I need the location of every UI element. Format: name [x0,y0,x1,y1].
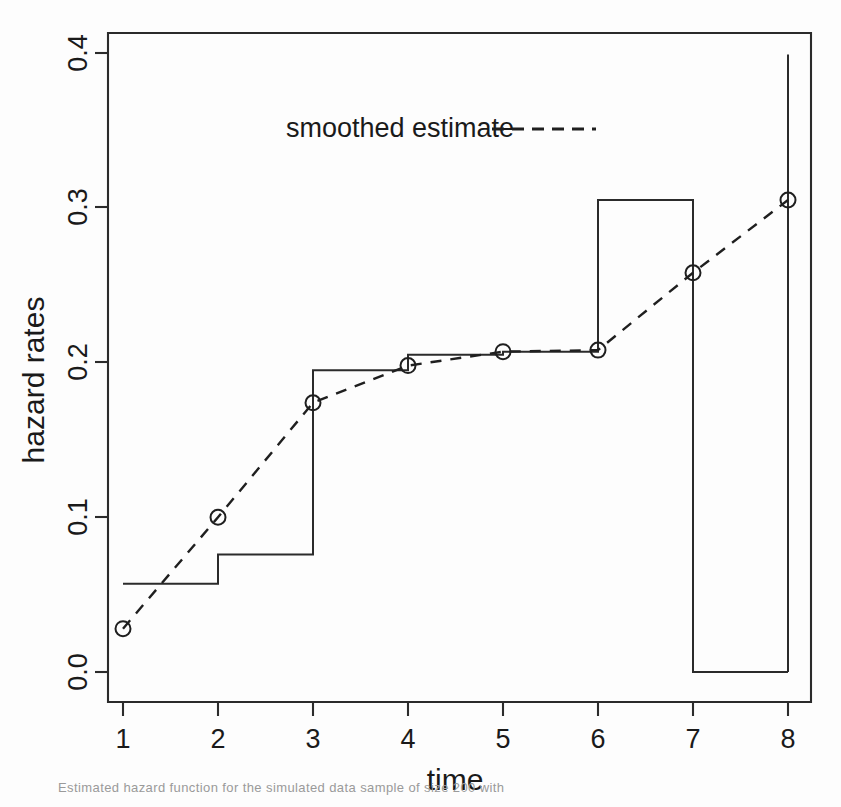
y-axis-tick-labels: 0.0 0.1 0.2 0.3 0.4 [63,34,93,691]
hazard-rate-figure: 0.0 0.1 0.2 0.3 0.4 hazard rates 1 2 3 4… [0,0,841,807]
x-tick-label-5: 5 [495,724,510,754]
hazard-rate-plot: 0.0 0.1 0.2 0.3 0.4 hazard rates 1 2 3 4… [0,0,841,807]
y-tick-label-3: 0.3 [63,188,93,226]
x-tick-label-2: 2 [210,724,225,754]
smoothed-estimate-path [123,200,788,629]
y-tick-label-1: 0.1 [63,498,93,536]
y-axis-title: hazard rates [17,297,50,464]
x-axis-ticks [123,702,788,716]
legend: smoothed estimate [286,113,596,143]
y-axis-ticks [95,53,108,672]
x-tick-label-8: 8 [780,724,795,754]
step-estimate-series [123,55,788,672]
x-tick-label-7: 7 [685,724,700,754]
smoothed-estimate-series [123,200,788,629]
x-tick-label-4: 4 [400,724,415,754]
y-tick-label-0: 0.0 [63,653,93,691]
x-axis-tick-labels: 1 2 3 4 5 6 7 8 [115,724,795,754]
x-tick-label-1: 1 [115,724,130,754]
y-tick-label-4: 0.4 [63,34,93,72]
page-caption: Estimated hazard function for the simula… [58,780,818,802]
step-estimate-path [123,55,788,672]
x-tick-label-6: 6 [590,724,605,754]
legend-label-smoothed-estimate: smoothed estimate [286,113,514,143]
x-tick-label-3: 3 [305,724,320,754]
y-tick-label-2: 0.2 [63,343,93,381]
